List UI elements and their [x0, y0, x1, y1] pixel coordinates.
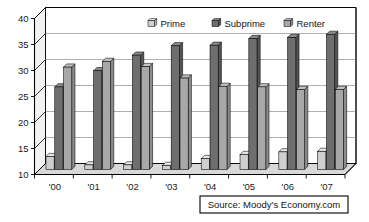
bar-front-face — [124, 165, 132, 170]
renter-swatch — [284, 21, 291, 27]
bar-front-face — [85, 165, 93, 170]
bar — [64, 64, 75, 170]
bar — [141, 63, 152, 169]
source-text: Source: Moody's Economy.com — [208, 199, 341, 210]
bar-side-face — [305, 86, 308, 169]
bar — [219, 83, 230, 169]
source-box: Source: Moody's Economy.com — [200, 196, 348, 213]
legend-label: Renter — [297, 18, 326, 29]
bar-front-face — [318, 151, 326, 169]
grouped-bar-chart: 10152025303540'00'01'02'03'04'05'06'07Pr… — [0, 0, 369, 222]
bar-side-face — [72, 64, 75, 170]
bar-front-face — [288, 37, 296, 169]
y-axis-tick-label: 35 — [18, 39, 29, 50]
x-axis-category-label: '00 — [49, 181, 61, 192]
legend-label: Subprime — [225, 18, 266, 29]
y-axis-tick-label: 20 — [18, 117, 29, 128]
bar-front-face — [326, 34, 334, 169]
prime-swatch — [148, 21, 155, 27]
x-axis-category-label: '07 — [320, 181, 332, 192]
bar — [335, 86, 346, 169]
bar-side-face — [188, 75, 191, 170]
bar-side-face — [343, 86, 346, 169]
y-axis-tick-label: 10 — [18, 169, 29, 180]
x-axis-category-label: '03 — [165, 181, 177, 192]
bar-front-face — [141, 67, 149, 170]
bar-side-face — [111, 58, 114, 169]
bar-front-face — [249, 39, 257, 170]
bar-front-face — [55, 87, 63, 170]
bar-front-face — [296, 89, 304, 169]
bar-front-face — [171, 46, 179, 170]
bar-side-face — [149, 63, 152, 169]
y-axis-tick-label: 15 — [18, 143, 29, 154]
subprime-swatch — [212, 21, 219, 27]
bar-side-face — [227, 83, 230, 169]
bar-front-face — [240, 154, 248, 169]
x-axis-category-label: '06 — [282, 181, 294, 192]
plot-back-wall: 10152025303540'00'01'02'03'04'05'06'07Pr… — [18, 8, 356, 214]
x-axis-category-label: '04 — [204, 181, 216, 192]
bar-front-face — [258, 87, 266, 170]
bar-front-face — [46, 157, 54, 170]
bar-front-face — [201, 159, 209, 170]
bar-front-face — [132, 55, 140, 169]
bar — [102, 58, 113, 169]
bar-front-face — [335, 89, 343, 169]
chart-container: 10152025303540'00'01'02'03'04'05'06'07Pr… — [0, 0, 369, 222]
bar — [258, 84, 269, 170]
y-axis-tick-label: 25 — [18, 91, 29, 102]
legend-label: Prime — [161, 18, 186, 29]
bar-front-face — [64, 67, 72, 169]
bar-front-face — [180, 78, 188, 170]
bar-front-face — [162, 165, 170, 169]
bar-front-face — [210, 45, 218, 169]
bar-front-face — [219, 86, 227, 169]
bar-front-face — [94, 71, 102, 170]
y-axis-tick-label: 30 — [18, 65, 29, 76]
bar-side-face — [266, 84, 269, 170]
x-axis-category-label: '01 — [88, 181, 100, 192]
bar — [296, 86, 307, 169]
y-axis-tick-label: 40 — [18, 13, 29, 24]
x-axis-category-label: '02 — [126, 181, 138, 192]
bar-front-face — [279, 152, 287, 170]
bar-front-face — [102, 61, 110, 169]
bar — [180, 75, 191, 170]
x-axis-category-label: '05 — [243, 181, 255, 192]
